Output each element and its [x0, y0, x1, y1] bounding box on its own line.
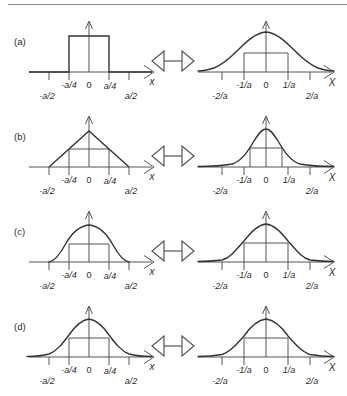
- transform-arrow-c: [150, 238, 196, 264]
- tick-label-a-left-neg-a4: -a/4: [61, 80, 77, 90]
- panel-row-b: (b): [0, 105, 347, 201]
- Y-axis-a: [263, 21, 270, 72]
- tick-label-c-right-neg2a: -2/a: [212, 281, 228, 291]
- X-ticks-c: [222, 262, 310, 270]
- tick-label-c-right-1a: 1/a: [283, 270, 296, 280]
- tick-label-b-left-0: 0: [86, 175, 91, 185]
- tick-label-a-left-neg-a2: -a/2: [39, 91, 55, 101]
- tick-label-b-left-a2: a/2: [125, 186, 138, 196]
- panel-row-c: (c): [0, 200, 347, 296]
- tick-label-c-left-a2: a/2: [125, 281, 138, 291]
- axis-label-d-left: x: [149, 361, 156, 372]
- transform-arrow-a: [150, 48, 196, 74]
- panel-d-right-plot: 0 -1/a 1/a -2/a 2/a X: [196, 295, 346, 391]
- panel-b-right-plot: 0 -1/a 1/a -2/a 2/a X: [196, 105, 346, 201]
- tick-label-a-right-0: 0: [263, 80, 268, 90]
- tick-label-d-right-2a: 2/a: [305, 376, 319, 386]
- tick-label-c-left-neg-a4: -a/4: [61, 270, 77, 280]
- tick-label-b-right-neg2a: -2/a: [212, 186, 228, 196]
- x-ticks-a: [49, 72, 129, 80]
- tick-label-c-right-2a: 2/a: [305, 281, 319, 291]
- panel-c-right-plot: 0 -1/a 1/a -2/a 2/a X: [196, 200, 346, 296]
- tick-label-d-left-0: 0: [86, 365, 91, 375]
- X-ticks-d: [222, 357, 310, 365]
- tick-label-b-left-neg-a2: -a/2: [39, 186, 55, 196]
- y-axis-c: [86, 211, 93, 262]
- fourier-transform-pairs-figure: (a): [0, 0, 347, 396]
- transform-arrow-b: [150, 143, 196, 169]
- axis-label-d-right: X: [328, 362, 336, 373]
- tick-label-b-right-2a: 2/a: [305, 186, 319, 196]
- X-ticks-b: [222, 167, 310, 175]
- Y-axis-d: [263, 306, 270, 357]
- tick-label-c-left-0: 0: [86, 270, 91, 280]
- x-ticks-d: [49, 357, 129, 365]
- tick-label-c-right-0: 0: [263, 270, 268, 280]
- tick-label-a-right-1a: 1/a: [283, 80, 296, 90]
- y-axis-d: [86, 306, 93, 357]
- tick-label-c-right-neg1a: -1/a: [236, 270, 252, 280]
- tick-label-a-right-2a: 2/a: [305, 91, 319, 101]
- axis-label-a-right: X: [328, 77, 336, 88]
- tick-label-d-left-a2: a/2: [125, 376, 138, 386]
- tick-label-b-left-a4: a/4: [104, 176, 117, 186]
- x-axis-d: [29, 351, 154, 364]
- tick-label-b-right-0: 0: [263, 175, 268, 185]
- x-axis-b: [29, 161, 154, 174]
- tick-label-d-right-neg1a: -1/a: [236, 365, 252, 375]
- y-axis-a: [86, 21, 93, 72]
- tick-label-c-left-a4: a/4: [104, 271, 117, 281]
- curve-a-left: [29, 36, 152, 72]
- panel-row-a: (a): [0, 10, 347, 106]
- tick-label-c-left-neg-a2: -a/2: [39, 281, 55, 291]
- tick-label-b-right-neg1a: -1/a: [236, 175, 252, 185]
- x-ticks-c: [49, 262, 129, 270]
- tick-label-a-right-neg2a: -2/a: [212, 91, 228, 101]
- tick-label-a-right-neg1a: -1/a: [236, 80, 252, 90]
- x-axis-c: [29, 256, 154, 269]
- tick-label-a-left-a4: a/4: [104, 81, 117, 91]
- axis-label-b-left: x: [149, 171, 156, 182]
- tick-label-b-left-neg-a4: -a/4: [61, 175, 77, 185]
- tick-label-d-right-0: 0: [263, 365, 268, 375]
- tick-label-b-right-1a: 1/a: [283, 175, 296, 185]
- axis-label-a-left: x: [149, 76, 156, 87]
- tick-label-d-left-a4: a/4: [104, 366, 117, 376]
- axis-label-c-left: x: [149, 266, 156, 277]
- axis-label-c-right: X: [328, 267, 336, 278]
- transform-arrow-d: [150, 333, 196, 359]
- Y-axis-c: [263, 211, 270, 262]
- tick-label-a-left-0: 0: [86, 80, 91, 90]
- tick-label-d-left-neg-a2: -a/2: [39, 376, 55, 386]
- panel-row-d: (d): [0, 295, 347, 391]
- tick-label-a-left-a2: a/2: [125, 91, 138, 101]
- tick-label-d-right-neg2a: -2/a: [212, 376, 228, 386]
- panel-a-right-plot: 0 -1/a 1/a -2/a 2/a X: [196, 10, 346, 106]
- tick-label-d-right-1a: 1/a: [283, 365, 296, 375]
- x-ticks-b: [49, 167, 129, 175]
- axis-label-b-right: X: [328, 172, 336, 183]
- Y-axis-b: [263, 116, 270, 167]
- y-axis-b: [86, 116, 93, 167]
- X-ticks-a: [222, 72, 310, 80]
- top-divider-rule: [8, 4, 347, 5]
- tick-label-d-left-neg-a4: -a/4: [61, 365, 77, 375]
